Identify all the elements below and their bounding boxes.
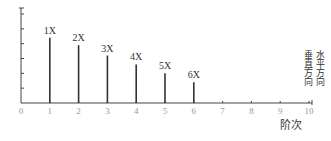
legend: 垂直方向 水平方向 — [302, 50, 328, 92]
x-tick-label: 0 — [19, 106, 24, 116]
x-tick-label: 3 — [105, 106, 110, 116]
x-tick-label: 4 — [134, 106, 139, 116]
x-tick-label: 5 — [163, 106, 168, 116]
x-tick-label: 9 — [278, 106, 283, 116]
x-tick-labels: 012345678910 — [19, 106, 314, 116]
x-tick-label: 6 — [192, 106, 197, 116]
bar-label: 1X — [44, 25, 57, 36]
bar-label: 5X — [159, 60, 172, 71]
x-tick-label: 2 — [76, 106, 81, 116]
bar-label: 4X — [130, 51, 143, 62]
legend-entry-vertical: 垂直方向 — [302, 50, 313, 86]
bar-label: 3X — [101, 43, 114, 54]
x-tick-label: 10 — [305, 106, 315, 116]
legend-entry-horizontal: 水平方向 — [314, 50, 325, 86]
bar-label: 2X — [72, 32, 85, 43]
x-axis-label: 阶次 — [280, 116, 302, 132]
bars: 1X2X3X4X5X6X — [44, 25, 201, 103]
x-tick-label: 1 — [48, 106, 53, 116]
x-tick-label: 8 — [249, 106, 254, 116]
x-tick-label: 7 — [220, 106, 225, 116]
bar-label: 6X — [188, 69, 201, 80]
